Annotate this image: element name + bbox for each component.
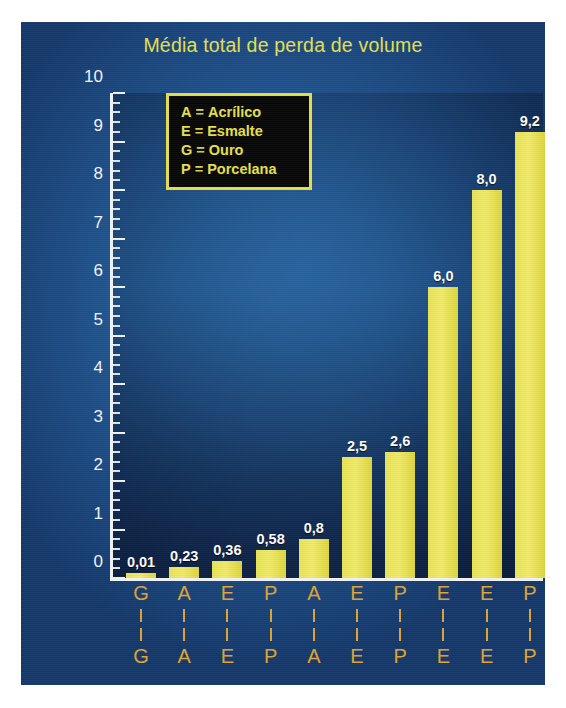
- y-tick-minor: [113, 111, 120, 113]
- y-tick-minor: [113, 538, 120, 540]
- x-category-label-bottom: P: [385, 644, 415, 668]
- x-category-group: PP: [256, 581, 286, 668]
- x-category-label-bottom: P: [515, 644, 545, 668]
- x-category-dash: [313, 609, 315, 622]
- legend-entry-key: P: [181, 161, 191, 177]
- bar-value-label: 0,36: [213, 542, 241, 558]
- legend-entry: P=Porcelana: [181, 160, 299, 179]
- x-category-group: EE: [472, 581, 502, 668]
- y-tick-minor: [113, 218, 120, 220]
- x-category-label-bottom: A: [169, 644, 199, 668]
- bar: 2,5: [342, 457, 372, 578]
- y-tick-major: [113, 141, 125, 143]
- x-category-label-top: P: [256, 581, 286, 605]
- legend-entry: G=Ouro: [181, 141, 299, 160]
- x-category-dash: [140, 609, 142, 622]
- x-category-group: GG: [126, 581, 156, 668]
- x-category-dash: [529, 628, 531, 641]
- legend-entry-name: Acrílico: [208, 104, 261, 120]
- y-tick-minor: [113, 412, 120, 414]
- y-tick-major: [113, 432, 125, 434]
- bar-value-label: 6,0: [433, 268, 453, 284]
- legend-entry-name: Esmalte: [207, 123, 263, 139]
- x-category-dash: [356, 628, 358, 641]
- x-category-label-top: E: [428, 581, 458, 605]
- y-tick-label: 6: [94, 262, 103, 279]
- x-category-label-top: P: [515, 581, 545, 605]
- x-category-label-bottom: A: [299, 644, 329, 668]
- y-tick-minor: [113, 315, 120, 317]
- x-category-dash: [486, 609, 488, 622]
- x-category-dash: [529, 609, 531, 622]
- bar: 6,0: [428, 287, 458, 578]
- y-tick-minor: [113, 305, 120, 307]
- y-tick-minor: [113, 451, 120, 453]
- y-tick-minor: [113, 160, 120, 162]
- bar: 0,01: [126, 573, 156, 578]
- y-tick-minor: [113, 470, 120, 472]
- legend-entry-key: G: [181, 142, 192, 158]
- y-tick-major: [113, 238, 125, 240]
- legend-box: A=AcrílicoE=EsmalteG=OuroP=Porcelana: [166, 93, 312, 190]
- legend-entry-equals: =: [192, 142, 208, 158]
- x-category-dash: [270, 609, 272, 622]
- bar-value-label: 9,2: [520, 113, 540, 129]
- bar-value-label: 2,6: [390, 433, 410, 449]
- x-category-dash: [399, 609, 401, 622]
- y-tick-label: 8: [94, 165, 103, 182]
- y-tick-label: 1: [94, 504, 103, 521]
- y-tick-minor: [113, 276, 120, 278]
- x-category-label-top: P: [385, 581, 415, 605]
- y-tick-minor: [113, 267, 120, 269]
- y-tick-minor: [113, 402, 120, 404]
- y-tick-major: [113, 189, 125, 191]
- y-tick-minor: [113, 519, 120, 521]
- y-tick-label: 7: [94, 213, 103, 230]
- y-tick-major: [113, 529, 125, 531]
- y-tick-minor: [113, 509, 120, 511]
- x-category-dash: [270, 628, 272, 641]
- y-tick-minor: [113, 247, 120, 249]
- legend-entry-equals: =: [191, 123, 207, 139]
- y-tick-major: [113, 92, 125, 94]
- y-tick-label: 4: [94, 359, 103, 376]
- x-category-dash: [399, 628, 401, 641]
- y-tick-minor: [113, 150, 120, 152]
- y-tick-minor: [113, 373, 120, 375]
- y-tick-minor: [113, 393, 120, 395]
- y-tick-minor: [113, 257, 120, 259]
- y-tick-minor: [113, 441, 120, 443]
- y-tick-label: 3: [94, 407, 103, 424]
- x-category-dash: [313, 628, 315, 641]
- y-tick-label: 5: [94, 310, 103, 327]
- y-tick-major: [113, 480, 125, 482]
- bar: 0,8: [299, 539, 329, 578]
- bar-value-label: 8,0: [477, 171, 497, 187]
- x-category-group: PP: [515, 581, 545, 668]
- x-category-label-bottom: E: [212, 644, 242, 668]
- chart-panel: Média total de perda de volume Perda de …: [21, 22, 545, 685]
- y-tick-label: 9: [94, 116, 103, 133]
- x-category-label-bottom: E: [428, 644, 458, 668]
- y-tick-minor: [113, 228, 120, 230]
- y-tick-minor: [113, 499, 120, 501]
- y-tick-label: 2: [94, 456, 103, 473]
- y-tick-minor: [113, 102, 120, 104]
- y-tick-major: [113, 577, 125, 579]
- x-category-dash: [226, 628, 228, 641]
- x-category-group: AA: [169, 581, 199, 668]
- x-category-label-bottom: P: [256, 644, 286, 668]
- x-category-label-top: A: [299, 581, 329, 605]
- x-category-label-bottom: G: [126, 644, 156, 668]
- x-category-group: EE: [212, 581, 242, 668]
- y-tick-label: 10: [84, 68, 103, 85]
- x-category-label-top: G: [126, 581, 156, 605]
- y-tick-minor: [113, 364, 120, 366]
- x-category-dash: [356, 609, 358, 622]
- bar: 0,23: [169, 567, 199, 578]
- legend-entry-key: A: [181, 104, 191, 120]
- y-tick-minor: [113, 422, 120, 424]
- bar-value-label: 2,5: [347, 438, 367, 454]
- y-tick-minor: [113, 208, 120, 210]
- legend-entry-key: E: [181, 123, 191, 139]
